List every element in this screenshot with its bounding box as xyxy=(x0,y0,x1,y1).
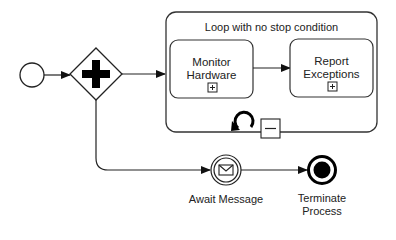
collapse-icon[interactable] xyxy=(261,119,280,138)
await-message-event[interactable] xyxy=(211,155,241,185)
task-monitor-label: Monitor Hardware xyxy=(170,56,253,82)
start-event[interactable] xyxy=(20,63,44,87)
task-monitor-label-line1: Monitor xyxy=(170,56,253,69)
expand-icon[interactable] xyxy=(328,82,337,91)
terminate-label-line1: Terminate xyxy=(282,192,362,205)
task-report-label-line2: Exceptions xyxy=(290,68,373,81)
expand-icon[interactable] xyxy=(208,83,217,92)
parallel-gateway[interactable] xyxy=(70,48,122,100)
task-monitor-label-line2: Hardware xyxy=(170,69,253,82)
terminate-label-line2: Process xyxy=(282,205,362,218)
subprocess-label: Loop with no stop condition xyxy=(166,21,377,34)
task-report-label: Report Exceptions xyxy=(290,55,373,81)
await-message-label: Await Message xyxy=(176,193,276,206)
envelope-icon xyxy=(219,165,233,175)
task-report-label-line1: Report xyxy=(290,55,373,68)
terminate-label: Terminate Process xyxy=(282,192,362,218)
terminate-end-event[interactable] xyxy=(309,157,336,184)
